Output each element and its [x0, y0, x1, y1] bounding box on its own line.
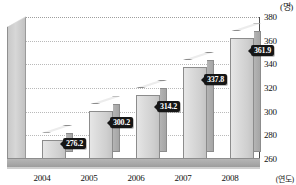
bar-chart: (명) 276.2 300.2 314.: [0, 0, 296, 185]
bar-front-face-2008: [230, 38, 254, 159]
xtick-2005: 2005: [69, 173, 109, 183]
value-label-2007: 337.8: [204, 74, 227, 85]
bar-side-face-2005: [113, 104, 120, 152]
bar-side-face-2006: [160, 88, 167, 152]
ytick-280: 280: [264, 130, 294, 140]
chart-floor: [7, 158, 260, 167]
gridline-320: [26, 88, 259, 89]
ytick-340: 340: [264, 59, 294, 69]
bar-top-face-2004: [42, 125, 73, 133]
gridline-360: [26, 41, 259, 42]
xtick-2007: 2007: [163, 173, 203, 183]
gridline-340: [26, 64, 259, 65]
xtick-2006: 2006: [116, 173, 156, 183]
value-label-2004: 276.2: [63, 138, 86, 149]
ytick-300: 300: [264, 107, 294, 117]
ytick-320: 320: [264, 83, 294, 93]
gridline-380: [26, 17, 259, 18]
x-axis-unit-label: (연도): [276, 173, 294, 184]
value-label-2005: 300.2: [110, 117, 133, 128]
xtick-2008: 2008: [210, 173, 250, 183]
bar-top-face-2005: [89, 96, 120, 104]
bar-top-face-2008: [230, 23, 261, 31]
plot-area: 276.2 300.2 314.2 337.8 361.9: [26, 17, 260, 159]
ytick-380: 380: [264, 12, 294, 22]
value-label-2008: 361.9: [251, 45, 274, 56]
ytick-360: 360: [264, 36, 294, 46]
xtick-2004: 2004: [22, 173, 62, 183]
ytick-260: 260: [264, 154, 294, 164]
value-label-2006: 314.2: [157, 101, 180, 112]
chart-wall-left: [7, 17, 26, 159]
bar-top-face-2006: [136, 80, 167, 88]
bar-top-face-2007: [183, 52, 214, 60]
